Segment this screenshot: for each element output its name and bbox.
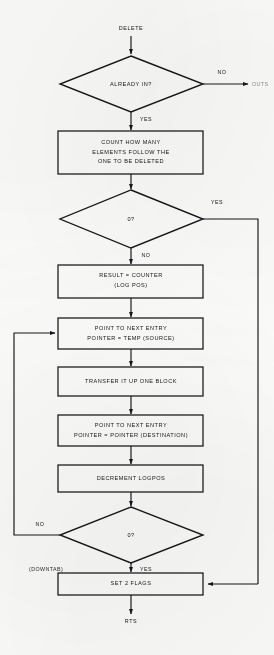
- process-result-line1: RESULT = COUNTER: [99, 272, 163, 278]
- process-decrement-label: DECREMENT LOGPOS: [97, 475, 166, 481]
- decision-zero-bottom-label: 0?: [127, 532, 134, 538]
- edge-label-zero-bottom-no: NO: [36, 521, 45, 527]
- process-point-next-entry-destination[interactable]: [58, 415, 203, 446]
- process-count-line2: ELEMENTS FOLLOW THE: [92, 149, 169, 155]
- edge-label-zero-top-yes: YES: [211, 199, 223, 205]
- annotation-downtab: (DOWNTAB): [29, 566, 63, 572]
- edge-label-zero-bottom-yes: YES: [140, 566, 152, 572]
- process-result-line2: (LOG POS): [114, 282, 147, 288]
- connector-zero-top-yes-bypass: [203, 219, 258, 584]
- process-point-source-line1: POINT TO NEXT ENTRY: [95, 325, 167, 331]
- edge-label-zero-top-no: NO: [142, 252, 151, 258]
- edge-label-already-in-yes: YES: [140, 116, 152, 122]
- process-count-line1: COUNT HOW MANY: [101, 139, 161, 145]
- decision-zero-top-label: 0?: [127, 216, 134, 222]
- edge-label-already-in-no: NO: [218, 69, 227, 75]
- terminal-exit-right-label: OUTS: [252, 81, 269, 87]
- process-point-next-entry-source[interactable]: [58, 318, 203, 349]
- decision-already-in-label: ALREADY IN?: [110, 81, 152, 87]
- process-set-flags-label: SET 2 FLAGS: [111, 580, 152, 586]
- process-transfer-label: TRANSFER IT UP ONE BLOCK: [85, 378, 177, 384]
- terminal-end-label: RTS: [125, 618, 137, 624]
- process-point-dest-line2: POINTER = POINTER (DESTINATION): [74, 432, 188, 438]
- terminal-start-label: DELETE: [119, 25, 144, 31]
- flowchart-canvas: DELETE ALREADY IN? NO OUTS YES COUNT HOW…: [0, 0, 274, 655]
- connector-zero-bottom-no-loop: [14, 333, 60, 535]
- process-point-source-line2: POINTER = TEMP (SOURCE): [87, 335, 174, 341]
- process-point-dest-line1: POINT TO NEXT ENTRY: [95, 422, 167, 428]
- flowchart-page: DELETE ALREADY IN? NO OUTS YES COUNT HOW…: [0, 0, 274, 655]
- process-count-line3: ONE TO BE DELETED: [98, 158, 164, 164]
